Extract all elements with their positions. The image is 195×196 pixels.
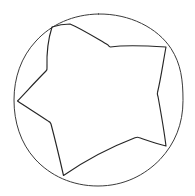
star-in-circle-drawing [0,0,195,196]
drawing-canvas [0,0,195,196]
canvas-background [0,0,195,196]
